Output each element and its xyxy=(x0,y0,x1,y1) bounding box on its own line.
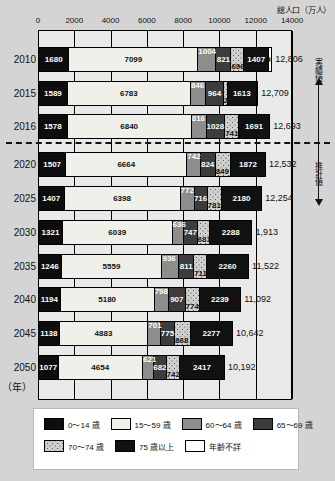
year-label-2030: 2030 xyxy=(0,220,36,245)
legend-swatch-2 xyxy=(182,418,202,430)
segment-value: 716 xyxy=(194,195,207,203)
segment-2015-65～69歳: 964 xyxy=(206,82,223,105)
segment-callout-2010-60～64歳: 1004 xyxy=(198,48,216,56)
segment-callout-2016-60～64歳: 816 xyxy=(192,115,205,123)
annotation-arrow-line xyxy=(318,84,319,200)
segment-2016-65～69歳: 1028 xyxy=(207,115,226,138)
segment-value: 6664 xyxy=(117,161,135,169)
segment-2030-75歳以上: 2288 xyxy=(210,221,252,244)
segment-2045-15～59歳: 4883 xyxy=(60,322,149,345)
segment-2035-15～59歳: 5559 xyxy=(62,255,163,278)
bar-2025[interactable]: 140763987162180 xyxy=(38,186,262,211)
actual-estimate-divider xyxy=(6,142,330,144)
total-label-2050: 10,192 xyxy=(228,355,256,380)
population-chart: 総人口（万人） 02000400060008000100001200014000… xyxy=(0,0,335,481)
year-label-2050: 2050 xyxy=(0,355,36,380)
segment-callout-2050-70～74歳: 742 xyxy=(167,371,180,379)
year-label-2035: 2035 xyxy=(0,254,36,279)
segment-callout-2015-60～64歳: 846 xyxy=(191,82,204,90)
legend-label-6: 年齢不詳 xyxy=(209,441,241,452)
segment-callout-2010-70～74歳: 696 xyxy=(231,63,244,71)
segment-value: 1194 xyxy=(41,296,58,304)
segment-value: 1321 xyxy=(42,229,60,237)
segment-2020-75歳以上: 1872 xyxy=(231,153,265,176)
segment-2020-0～14歳: 1507 xyxy=(39,153,66,176)
total-label-2010: 12,806 xyxy=(275,47,303,72)
segment-value: 2288 xyxy=(222,229,240,237)
legend-label-0: 0～14 歳 xyxy=(68,419,100,430)
segment-value: 747 xyxy=(184,229,197,237)
segment-callout-2020-70～74歳: 849 xyxy=(216,168,229,176)
segment-2025-0～14歳: 1407 xyxy=(39,187,65,210)
bar-2040[interactable]: 119451809072239 xyxy=(38,287,241,312)
total-label-2045: 10,642 xyxy=(236,321,264,346)
segment-callout-2016-70～74歳: 741 xyxy=(225,130,238,138)
segment-callout-2045-70～74歳: 868 xyxy=(175,337,188,345)
segment-2016-15～59歳: 6840 xyxy=(68,115,192,138)
segment-2030-65～69歳: 747 xyxy=(184,221,198,244)
annotation-arrow-up-icon xyxy=(315,78,323,85)
x-tick-8000: 8000 xyxy=(174,16,192,25)
gridline-14000 xyxy=(292,31,293,399)
legend-item-1: 15～59 歳 xyxy=(111,418,171,430)
year-label-2040: 2040 xyxy=(0,287,36,312)
year-label-2020: 2020 xyxy=(0,152,36,177)
segment-2045-75歳以上: 2277 xyxy=(191,322,232,345)
legend-swatch-6 xyxy=(185,440,205,452)
segment-2050-15～59歳: 4654 xyxy=(59,356,143,379)
segment-2020-15～59歳: 6664 xyxy=(66,153,187,176)
segment-2016-75歳以上: 1691 xyxy=(239,115,270,138)
segment-value: 6783 xyxy=(120,90,138,98)
segment-2050-0～14歳: 1077 xyxy=(39,356,59,379)
x-tick-2000: 2000 xyxy=(65,16,83,25)
segment-callout-2050-60～64歳: 621 xyxy=(143,356,156,364)
segment-2045-0～14歳: 1138 xyxy=(39,322,60,345)
segment-callout-2045-60～64歳: 701 xyxy=(148,322,161,330)
segment-value: 1872 xyxy=(239,161,257,169)
total-label-2035: 11,522 xyxy=(252,254,279,279)
segment-2035-65～69歳: 811 xyxy=(179,255,194,278)
annotation-arrow-down-icon xyxy=(315,199,323,206)
year-label-2045: 2045 xyxy=(0,321,36,346)
legend-item-6: 年齢不詳 xyxy=(185,440,241,452)
x-tick-0: 0 xyxy=(36,16,40,25)
segment-callout-2030-70～74歳: 681 xyxy=(198,236,211,244)
segment-value: 2260 xyxy=(219,263,237,271)
legend-swatch-3 xyxy=(253,418,273,430)
segment-2010-0～14歳: 1680 xyxy=(39,48,69,71)
segment-2025-65～69歳: 716 xyxy=(195,187,208,210)
bar-2050[interactable]: 107746546822417 xyxy=(38,355,225,380)
year-label-2010: 2010 xyxy=(0,47,36,72)
segment-value: 811 xyxy=(180,263,193,271)
legend-label-2: 60～64 歳 xyxy=(206,419,242,430)
year-axis-unit: （年） xyxy=(2,379,32,394)
legend-swatch-1 xyxy=(111,418,131,430)
segment-value: 1589 xyxy=(44,90,62,98)
segment-2030-0～14歳: 1321 xyxy=(39,221,63,244)
segment-value: 964 xyxy=(208,90,221,98)
segment-value: 5559 xyxy=(103,263,121,271)
x-tick-10000: 10000 xyxy=(208,16,230,25)
segment-2016-0～14歳: 1578 xyxy=(39,115,68,138)
segment-value: 824 xyxy=(201,161,214,169)
segment-2050-75歳以上: 2417 xyxy=(180,356,224,379)
legend-item-0: 0～14 歳 xyxy=(44,418,100,430)
segment-value: 907 xyxy=(170,296,183,304)
segment-callout-2030-60～64歳: 636 xyxy=(173,221,186,229)
segment-2040-75歳以上: 2239 xyxy=(200,288,241,311)
bar-2030[interactable]: 132160397472288 xyxy=(38,220,252,245)
legend-swatch-0 xyxy=(44,418,64,430)
x-tick-6000: 6000 xyxy=(138,16,156,25)
segment-value: 5180 xyxy=(98,296,116,304)
bar-2035[interactable]: 124655598112260 xyxy=(38,254,249,279)
segment-value: 98 xyxy=(266,56,272,64)
segment-value: 6840 xyxy=(120,123,138,131)
segment-2025-15～59歳: 6398 xyxy=(65,187,181,210)
bar-2045[interactable]: 113848837752277 xyxy=(38,321,233,346)
segment-value: 1246 xyxy=(41,263,59,271)
segment-2010-15～59歳: 7099 xyxy=(69,48,198,71)
segment-2035-75歳以上: 2260 xyxy=(207,255,248,278)
segment-value: 2277 xyxy=(202,330,220,338)
legend-item-5: 75 歳以上 xyxy=(115,440,174,452)
bar-2020[interactable]: 150766648241872 xyxy=(38,152,266,177)
